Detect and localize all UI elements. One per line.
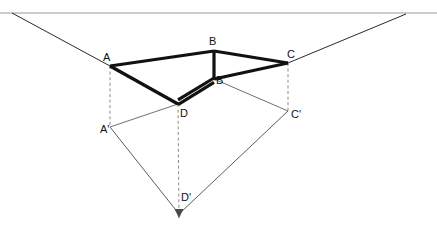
label-Bprime: B': [216, 74, 225, 86]
label-Dprime: D': [181, 191, 191, 203]
label-A: A: [103, 51, 111, 63]
perspective-diagram: A B C B' D A' C' D': [0, 0, 437, 227]
label-D: D: [180, 107, 188, 119]
label-Aprime: A': [100, 123, 109, 135]
diagram-canvas: A B C B' D A' C' D': [0, 0, 437, 227]
label-B: B: [209, 35, 216, 47]
label-C: C: [287, 48, 295, 60]
label-Cprime: C': [291, 108, 301, 120]
canvas-background: [0, 0, 437, 227]
